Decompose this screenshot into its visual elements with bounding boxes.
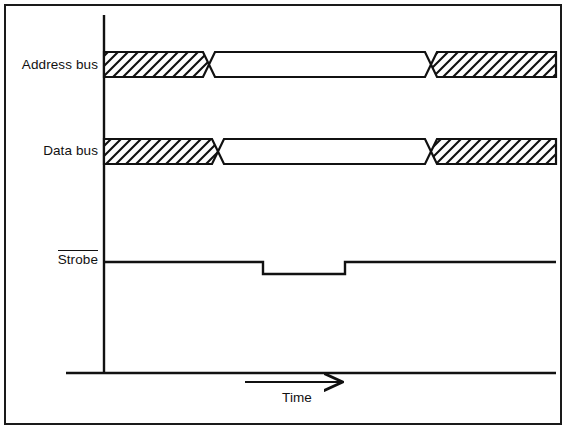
- data-bus-invalid-segment-1: [104, 139, 218, 164]
- address-bus-valid-segment: [209, 52, 431, 77]
- address-bus-label: Address bus: [14, 57, 98, 72]
- waveform-address-bus: [104, 52, 556, 77]
- address-bus-invalid-segment-2: [431, 52, 556, 77]
- waveform-strobe: [104, 262, 556, 274]
- strobe-label: Strobe: [58, 250, 98, 268]
- time-axis-label: Time: [267, 390, 327, 405]
- timing-diagram-figure: Address bus Data bus Strobe Time: [0, 0, 570, 432]
- data-bus-label: Data bus: [14, 143, 98, 158]
- data-bus-invalid-segment-2: [431, 139, 556, 164]
- strobe-label-container: Strobe: [14, 250, 98, 268]
- strobe-signal-trace: [104, 262, 556, 274]
- waveform-data-bus: [104, 139, 556, 164]
- data-bus-valid-segment: [218, 139, 431, 164]
- address-bus-invalid-segment-1: [104, 52, 209, 77]
